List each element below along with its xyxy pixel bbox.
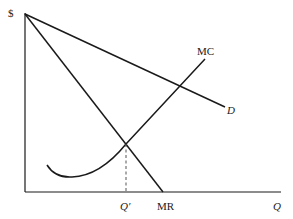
quantity-label: Q′	[120, 200, 131, 212]
mr-label: MR	[157, 200, 175, 212]
marginal-revenue-curve	[25, 14, 163, 192]
demand-label: D	[226, 104, 235, 116]
x-axis-label: Q	[273, 200, 281, 212]
marginal-cost-curve	[47, 59, 205, 177]
y-axis-label: $	[8, 7, 14, 19]
mc-label: MC	[197, 45, 214, 57]
monopoly-diagram: $ Q MC D MR Q′	[0, 0, 293, 219]
demand-curve	[25, 14, 225, 107]
